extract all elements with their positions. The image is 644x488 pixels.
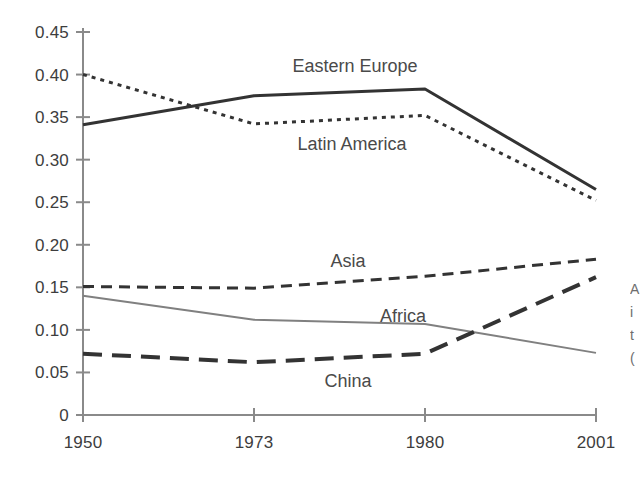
y-tick-label: 0 [59, 406, 69, 425]
series-line-china [83, 277, 596, 362]
x-tick-label: 2001 [577, 433, 616, 452]
chart-figure: 0.450.400.350.300.250.200.150.100.050 19… [0, 0, 644, 488]
x-tick-label: 1980 [406, 433, 445, 452]
series-label-latin-america: Latin America [297, 134, 407, 154]
y-tick-label: 0.10 [35, 321, 69, 340]
side-caption-line-3: t [630, 324, 644, 347]
side-caption-line-2: i [630, 301, 644, 324]
series-label-asia: Asia [330, 251, 366, 271]
series-labels: Eastern EuropeLatin AmericaAsiaAfricaChi… [292, 56, 427, 391]
side-caption-line-4: ( [630, 347, 644, 370]
y-tick-label: 0.45 [35, 23, 69, 42]
y-tick-label: 0.30 [35, 151, 69, 170]
y-axis: 0.450.400.350.300.250.200.150.100.050 [35, 23, 90, 425]
y-tick-label: 0.35 [35, 108, 69, 127]
y-tick-label: 0.25 [35, 193, 69, 212]
y-tick-label: 0.05 [35, 363, 69, 382]
line-chart: 0.450.400.350.300.250.200.150.100.050 19… [0, 0, 644, 488]
y-axis-tick-labels: 0.450.400.350.300.250.200.150.100.050 [35, 23, 69, 425]
side-caption-line-1: A [630, 278, 644, 301]
series-lines [83, 75, 596, 363]
series-line-africa [83, 296, 596, 353]
y-tick-label: 0.15 [35, 278, 69, 297]
side-caption: A i t ( [630, 278, 644, 370]
x-tick-label: 1973 [235, 433, 274, 452]
y-tick-label: 0.40 [35, 66, 69, 85]
x-axis-tick-labels: 1950197319802001 [64, 433, 616, 452]
y-tick-label: 0.20 [35, 236, 69, 255]
x-tick-label: 1950 [64, 433, 103, 452]
series-label-africa: Africa [380, 306, 427, 326]
x-axis: 1950197319802001 [64, 408, 616, 452]
series-label-china: China [324, 371, 372, 391]
series-label-eastern-europe: Eastern Europe [292, 56, 417, 76]
